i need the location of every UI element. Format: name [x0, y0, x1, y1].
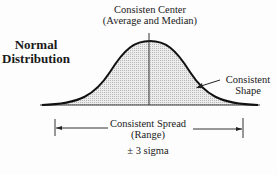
right-arrowhead-icon — [236, 127, 242, 131]
center-label: Consisten Center (Average and Median) — [100, 4, 200, 26]
title-line-1: Normal — [2, 38, 70, 52]
center-label-line-1: Consisten Center — [100, 4, 200, 15]
spread-label-line-2: (Range) — [98, 129, 198, 140]
shape-label-line-1: Consistent — [220, 74, 276, 85]
left-arrowhead-icon — [56, 126, 62, 130]
shape-label-line-2: Shape — [220, 85, 276, 96]
spread-label: Consistent Spread (Range) — [98, 118, 198, 140]
center-label-line-2: (Average and Median) — [100, 15, 200, 26]
title-line-2: Distribution — [2, 52, 70, 66]
diagram-title: Normal Distribution — [2, 38, 70, 65]
spread-label-line-1: Consistent Spread — [98, 118, 198, 129]
sigma-label: ± 3 sigma — [118, 145, 178, 156]
normal-distribution-diagram: Normal Distribution Consisten Center (Av… — [0, 0, 277, 175]
shape-label: Consistent Shape — [220, 74, 276, 96]
